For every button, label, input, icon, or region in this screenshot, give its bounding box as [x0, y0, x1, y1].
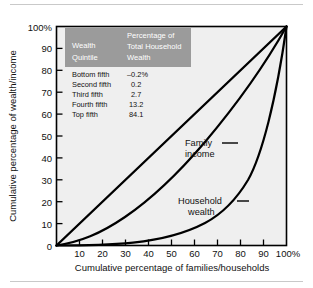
x-tick-label: 30 — [120, 248, 131, 259]
y-tick-label: 90 — [41, 43, 52, 54]
x-tick-label: 40 — [143, 248, 154, 259]
y-tick-label: 80 — [41, 65, 52, 76]
y-tick-label: 60 — [41, 109, 52, 120]
y-tick-label: 100% — [28, 22, 53, 33]
table-header-col2-line2: Total Household — [127, 42, 181, 51]
table-header-col2-line3: Wealth — [127, 53, 151, 62]
annotation-family-income-line2: income — [185, 149, 215, 159]
x-tick-label: 100% — [276, 248, 301, 259]
x-tick-label: 70 — [212, 248, 223, 259]
y-tick-label: 10 — [41, 219, 52, 230]
table-cell-pct: 0.2 — [131, 80, 141, 89]
y-tick-label: 20 — [41, 197, 52, 208]
table-cell-quintile: Second fifth — [72, 80, 111, 89]
x-tick-label: 10 — [74, 248, 85, 259]
table-header-col2-line1: Percentage of — [127, 31, 175, 40]
table-cell-quintile: Third fifth — [72, 90, 103, 99]
table-cell-pct: –0.2% — [127, 70, 148, 79]
table-cell-pct: 13.2 — [129, 100, 143, 109]
y-tick-label: 70 — [41, 87, 52, 98]
table-cell-quintile: Fourth fifth — [72, 100, 107, 109]
x-tick-label: 20 — [97, 248, 108, 259]
table-header-col1-line2: Quintile — [72, 53, 98, 62]
y-tick-label: 40 — [41, 153, 52, 164]
x-tick-label: 60 — [189, 248, 200, 259]
y-tick-label: 30 — [41, 175, 52, 186]
x-tick-label: 50 — [166, 248, 177, 259]
table-cell-pct: 84.1 — [129, 110, 143, 119]
x-tick-label: 90 — [258, 248, 269, 259]
table-cell-quintile: Top fifth — [72, 110, 98, 119]
x-tick-label: 80 — [235, 248, 246, 259]
table-header-col1-line1: Wealth — [72, 41, 96, 50]
y-axis-tick-labels: 100% 90 80 70 60 50 40 30 20 10 0 — [28, 22, 53, 252]
x-axis-tick-labels: 10 20 30 40 50 60 70 80 90 100% — [74, 248, 300, 259]
annotation-household-wealth-line1: Household — [178, 196, 222, 206]
table-cell-quintile: Bottom fifth — [72, 70, 109, 79]
annotation-family-income-line1: Family — [185, 138, 212, 148]
y-tick-label: 0 — [47, 241, 52, 252]
table-row: Second fifth 0.2 — [72, 80, 141, 89]
y-axis-title: Cumulative percentage of wealth/income — [7, 50, 18, 222]
lorenz-curve-figure: 100% 90 80 70 60 50 40 30 20 10 0 — [0, 0, 313, 288]
annotation-household-wealth-line2: wealth — [187, 207, 215, 217]
table-cell-pct: 2.7 — [131, 90, 141, 99]
y-tick-label: 50 — [41, 131, 52, 142]
x-axis-title: Cumulative percentage of families/househ… — [75, 262, 270, 273]
